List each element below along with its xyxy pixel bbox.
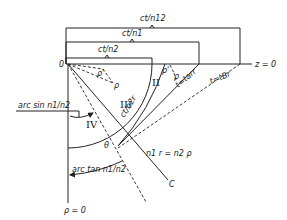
bracket-ct-n2: ct/n2 [66, 45, 152, 64]
arctan-angle-annotation: arc tan n1/n2 [70, 161, 126, 175]
region-IV-label: IV [86, 119, 98, 130]
rho-axis-label: ρ = 0 [64, 206, 86, 215]
dashed-critical-line [68, 64, 146, 202]
ray-construction-right: ρ' ρ [162, 65, 179, 81]
point-c-label: C [169, 180, 175, 189]
arctan-label: arc tan n1/n2 [72, 165, 126, 174]
theta-label: θ [104, 141, 109, 150]
z-axis-label: z = 0 [254, 60, 276, 69]
arcsin-angle-annotation: arc sin n1/n2 [16, 101, 93, 117]
region-III-label: III [120, 99, 132, 110]
rho-prime-left-label: ρ' [97, 69, 104, 78]
bracket-ct-n1: ct/n1 [66, 29, 199, 64]
bracket-ct-n1-label: ct/n1 [122, 29, 142, 38]
wavefront-arc-ct-n2 [68, 64, 152, 148]
origin-label: 0 [59, 60, 64, 69]
bracket-ct-n2-label: ct/n2 [98, 45, 118, 54]
bracket-ct-n12: ct/n12 [66, 14, 240, 64]
arcsin-label: arc sin n1/n2 [18, 101, 70, 110]
bracket-ct-n12-label: ct/n12 [140, 14, 165, 23]
rho-right-label: ρ [174, 72, 179, 81]
region-II-label: II [152, 77, 160, 88]
line-equation-label: n1 r = n2 ρ [146, 149, 192, 158]
refraction-diagram: ct/n12 ct/n1 ct/n2 z = 0 0 ρ = 0 C n1 r … [0, 0, 287, 220]
rho-prime-right-label: ρ' [162, 66, 169, 75]
t-br-label: t=tBr [208, 69, 232, 86]
rho-left-label: ρ [114, 81, 119, 90]
